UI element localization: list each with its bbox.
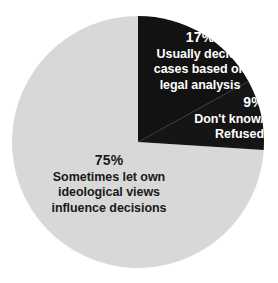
pie-label-legal-analysis-line-2: cases based on [139, 62, 261, 78]
pie-label-legal-analysis: 17% Usually decide cases based on legal … [139, 30, 261, 93]
pie-chart: 17% Usually decide cases based on legal … [0, 0, 278, 283]
pie-label-dont-know-line-2: Refused [163, 127, 264, 143]
pie-label-dont-know-line-1: Don't know/ [163, 112, 264, 128]
pie-label-ideological-views-line-2: ideological views [14, 185, 204, 201]
pie-label-ideological-views-line-1: Sometimes let own [14, 170, 204, 186]
pie-label-ideological-views-percent: 75% [14, 153, 204, 169]
pie-label-ideological-views: 75% Sometimes let own ideological views … [14, 153, 204, 216]
pie-label-legal-analysis-line-3: legal analysis [139, 78, 261, 94]
pie-label-legal-analysis-line-1: Usually decide [139, 47, 261, 63]
pie-label-ideological-views-line-3: influence decisions [14, 201, 204, 217]
pie-label-dont-know-percent: 9% [163, 95, 264, 111]
pie-label-dont-know: 9% Don't know/ Refused [163, 95, 264, 143]
pie-label-legal-analysis-percent: 17% [139, 30, 261, 46]
